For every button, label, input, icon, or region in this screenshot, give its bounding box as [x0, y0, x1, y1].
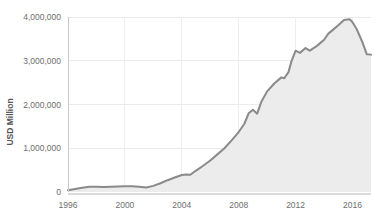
y-tick-label: 2,000,000 — [23, 100, 61, 110]
y-axis-title: USD Million — [5, 98, 15, 145]
x-tick-label: 2008 — [229, 200, 248, 210]
x-tick-labels-group: 199620002004200820122016 — [59, 200, 363, 210]
y-tick-label: 4,000,000 — [23, 12, 61, 22]
x-tick-label: 2016 — [343, 200, 362, 210]
y-tick-labels-group: 01,000,0002,000,0003,000,0004,000,000 — [23, 12, 61, 197]
area-chart: 01,000,0002,000,0003,000,0004,000,000 19… — [0, 0, 377, 224]
series-area-group — [68, 19, 371, 192]
x-tick-label: 2000 — [115, 200, 134, 210]
x-tick-label: 2004 — [172, 200, 191, 210]
series-area-fill — [68, 19, 371, 192]
y-tick-label: 0 — [56, 187, 61, 197]
x-tick-label: 2012 — [286, 200, 305, 210]
chart-container: 01,000,0002,000,0003,000,0004,000,000 19… — [0, 0, 377, 224]
y-tick-label: 3,000,000 — [23, 56, 61, 66]
x-tick-label: 1996 — [59, 200, 78, 210]
y-tick-label: 1,000,000 — [23, 143, 61, 153]
